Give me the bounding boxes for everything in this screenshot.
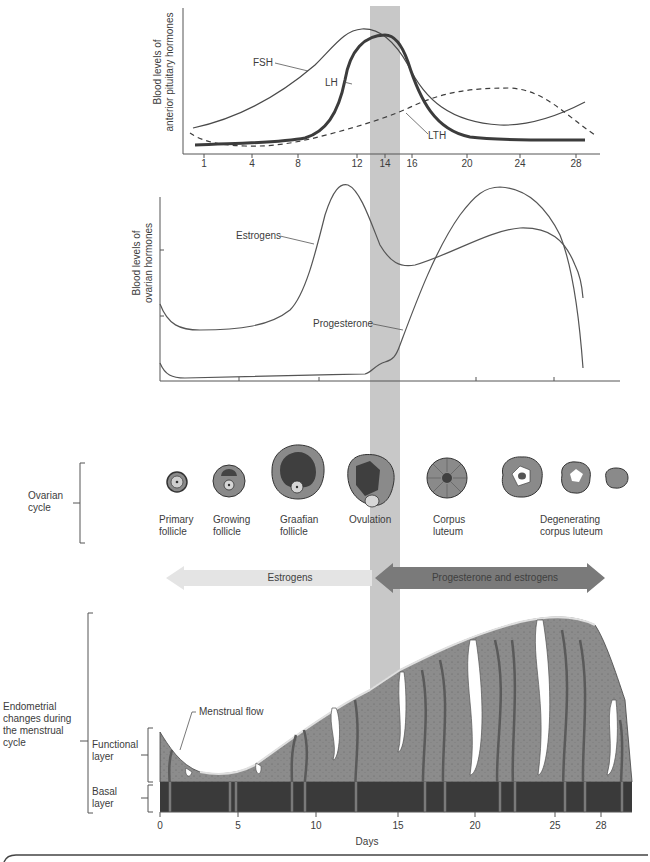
x-tick: 15 bbox=[392, 820, 403, 831]
endometrial-label-line: the menstrual bbox=[3, 725, 71, 737]
endometrial-label-line: Endometrial bbox=[3, 701, 71, 713]
days-axis-label: Days bbox=[356, 836, 379, 847]
basal-layer-line: Basal bbox=[92, 786, 117, 798]
functional-layer-line: Functional bbox=[92, 739, 138, 751]
menstrual-flow-label: Menstrual flow bbox=[199, 706, 263, 718]
functional-layer-label: Functional layer bbox=[92, 739, 138, 763]
x-tick: 0 bbox=[157, 820, 163, 831]
x-tick: 5 bbox=[235, 820, 241, 831]
basal-layer-label: Basal layer bbox=[92, 786, 117, 810]
endometrial-label-line: cycle bbox=[3, 737, 71, 749]
basal-layer-line: layer bbox=[92, 798, 117, 810]
x-tick: 25 bbox=[549, 820, 560, 831]
endometrial-label-line: changes during bbox=[3, 713, 71, 725]
endometrium-drawing bbox=[0, 0, 650, 862]
x-tick: 28 bbox=[595, 820, 606, 831]
x-tick: 20 bbox=[469, 820, 480, 831]
x-tick: 10 bbox=[310, 820, 321, 831]
endometrial-changes-label: Endometrial changes during the menstrual… bbox=[3, 701, 71, 749]
functional-layer-line: layer bbox=[92, 751, 138, 763]
